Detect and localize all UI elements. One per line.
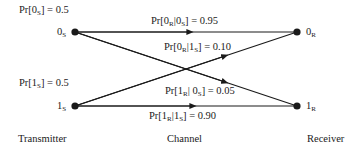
transmitter-label: Transmitter [18,134,67,145]
prior-0s-label: Pr[0S] = 0.5 [19,5,69,17]
channel-label: Channel [167,134,202,145]
node-0s-label: 0S [57,27,66,39]
node-1s [71,102,78,109]
node-0s [71,28,78,35]
receiver-label: Receiver [307,134,344,145]
node-0r [293,28,300,35]
transition-1r-given-1s: Pr[1R|1S] = 0.90 [149,111,216,123]
transition-1r-given-0s: Pr[1R| 0S] = 0.05 [165,86,235,98]
node-1r [293,102,300,109]
transition-0r-given-0s: Pr[0R|0S] = 0.95 [151,16,218,28]
node-0r-label: 0R [306,27,316,39]
prior-1s-label: Pr[1S] = 0.5 [19,78,69,90]
node-1s-label: 1S [57,101,66,113]
transition-0r-given-1s: Pr[0R|1S] = 0.10 [164,42,231,54]
node-1r-label: 1R [306,101,316,113]
